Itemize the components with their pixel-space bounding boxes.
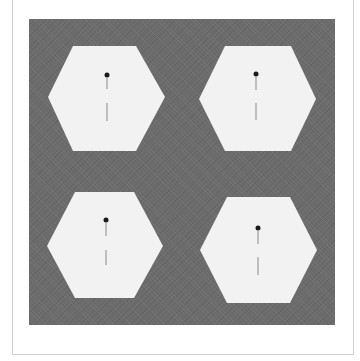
hexagon-top-right — [199, 46, 316, 151]
hexagon-shape — [48, 46, 165, 151]
dot-marker — [256, 226, 261, 231]
hexagon-bottom-right — [200, 197, 317, 303]
hexagon-shape — [47, 192, 163, 298]
dot-marker — [104, 218, 109, 223]
hexagon-shape — [200, 197, 317, 303]
hexagon-group — [0, 0, 360, 361]
dot-marker — [105, 73, 110, 78]
hexagon-bottom-left — [47, 192, 163, 298]
hexagon-shape — [199, 46, 316, 151]
hexagon-top-left — [48, 46, 165, 151]
dot-marker — [254, 72, 259, 77]
